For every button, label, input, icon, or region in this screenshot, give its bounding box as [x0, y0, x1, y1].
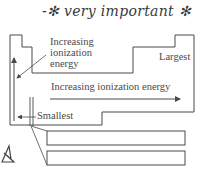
group-trend-line-1: Increasing — [50, 36, 94, 47]
lanthanide-row — [47, 131, 185, 145]
group-trend-line-2: ionization — [50, 47, 94, 58]
period-trend-label: Increasing ionization energy — [51, 81, 170, 92]
diagram-canvas: -✻ very important ✻ Increasing ionizatio… — [0, 0, 200, 173]
group-trend-line-3: energy — [50, 58, 94, 69]
group-trend-label: Increasing ionization energy — [50, 36, 94, 69]
handwritten-star-doodle-icon — [0, 140, 20, 166]
fblock-link-bottom — [31, 126, 47, 165]
largest-label: Largest — [159, 51, 190, 62]
actinide-row — [47, 151, 185, 165]
smallest-label: Smallest — [37, 110, 73, 121]
fblock-link-top — [31, 126, 47, 131]
